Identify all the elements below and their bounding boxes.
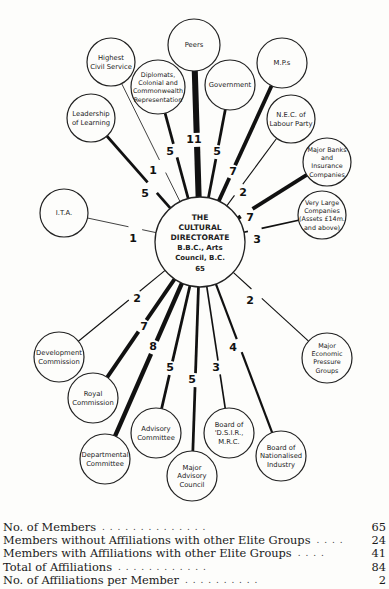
edge-ita: [142, 230, 156, 233]
node-leadership-of-learning: Leadershipof Learning: [67, 94, 115, 142]
node-label-line: Board of: [267, 444, 296, 452]
node-board-dsir: Board of'D.S.I.R.,M.R.C.: [204, 408, 254, 458]
stat-row-total-affiliations: Total of Affiliations . . . . . . . . . …: [3, 561, 386, 574]
edge-diplomats: [165, 113, 173, 144]
node-major-economic-pressure-groups: MajorEconomicPressureGroups: [302, 333, 352, 383]
node-ita: I.T.A.: [40, 189, 88, 237]
node-label-line: M.R.C.: [218, 438, 240, 446]
edge-mps: [219, 178, 230, 201]
edge-weight-label: 5: [166, 361, 174, 374]
node-label-line: Leadership: [72, 110, 109, 118]
edge-advisory-committee: [162, 375, 170, 409]
node-label-line: Major: [183, 464, 202, 472]
node-label-line: Insurance: [311, 162, 342, 170]
edge-board-nationalised-industry: [216, 284, 237, 339]
node-label-line: Companies: [309, 171, 345, 179]
edge-leadership-of-learning: [157, 193, 170, 208]
node-peers: Peers: [168, 19, 220, 71]
edge-development-commission: [78, 300, 128, 341]
node-label-line: Major Banks: [307, 146, 347, 154]
edge-major-advisory-council: [196, 287, 199, 373]
node-label-line: Commission: [38, 358, 79, 366]
node-advisory-committee: AdvisoryCommittee: [131, 408, 181, 458]
node-label-line: Board of: [215, 421, 244, 429]
edge-peers: [197, 147, 199, 197]
node-board-nationalised-industry: Board ofNationalisedIndustry: [256, 431, 306, 481]
center-label-line: B.B.C., Arts: [177, 244, 222, 252]
center-node-cultural-directorate: THECULTURALDIRECTORATEB.B.C., ArtsCounci…: [155, 197, 245, 287]
edge-weight-label: 5: [188, 373, 196, 386]
node-nec-labour: N.E.C. ofLabour Party: [267, 95, 315, 143]
edge-weight-label: 3: [212, 361, 220, 374]
node-label-line: Nationalised: [260, 452, 302, 460]
node-label-line: Diplomats,: [141, 71, 175, 79]
edge-weight-label: 7: [140, 320, 148, 333]
leader-dots: . . . . . . . . . .: [179, 574, 368, 587]
center-label-line: 65: [195, 265, 205, 273]
node-label-line: N.E.C. of: [276, 111, 306, 119]
node-label-line: Highest: [98, 54, 124, 62]
node-label-line: Commission: [72, 399, 113, 407]
edge-weight-label: 5: [166, 145, 174, 158]
edge-leadership-of-learning: [107, 136, 148, 182]
node-label-line: Labour Party: [269, 120, 312, 128]
edge-highest-civil-service: [166, 173, 180, 202]
node-royal-commission: RoyalCommission: [68, 373, 118, 423]
stat-value: 84: [368, 561, 386, 574]
node-label-line: (Assets £14m.: [299, 215, 345, 223]
edge-weight-label: 5: [213, 145, 221, 158]
node-label-line: Industry: [267, 461, 295, 469]
node-label-line: Council: [179, 481, 204, 489]
node-development-commission: DevelopmentCommission: [34, 332, 84, 382]
edge-weight-label: 2: [246, 294, 254, 307]
node-label-line: Colonial and: [138, 79, 178, 87]
node-label-line: Committee: [137, 434, 175, 442]
node-label-line: Government: [209, 81, 252, 89]
stat-label: No. of Affiliations per Member: [3, 574, 179, 587]
edge-weight-label: 7: [246, 211, 254, 224]
edge-weight-label: 1: [149, 164, 157, 177]
node-label-line: Commonwealth: [133, 87, 183, 95]
affiliation-diagram: 1115572735127855342 PeersHighestCivil Se…: [0, 0, 389, 520]
node-label-line: Advisory: [141, 425, 170, 433]
node-label-line: Development: [36, 349, 82, 357]
edge-royal-commission: [107, 332, 138, 378]
edge-very-large-companies: [262, 220, 299, 228]
center-label-line: Council, B.C.: [175, 254, 225, 262]
node-label-line: 'D.S.I.R.,: [215, 429, 244, 437]
statistics-table: No. of Members . . . . . . . . . . . . .…: [3, 521, 386, 587]
node-government: Government: [205, 60, 255, 110]
node-label-line: Very Large: [305, 199, 339, 207]
node-mps: M.P.s: [257, 38, 307, 88]
edge-weight-label: 7: [229, 165, 237, 178]
node-label-line: Economic: [312, 350, 343, 358]
node-diplomats: Diplomats,Colonial andCommonwealthRepres…: [131, 60, 185, 114]
edge-weight-label: 4: [229, 341, 237, 354]
node-major-banks: Major BanksandInsuranceCompanies: [303, 138, 351, 186]
edge-major-advisory-council: [193, 387, 195, 451]
edge-nec-labour: [227, 195, 235, 205]
edge-major-economic-pressure-groups: [233, 272, 251, 289]
stat-label: Members with Affiliations with other Eli…: [3, 547, 292, 560]
node-label-line: Civil Service: [90, 63, 132, 71]
edge-weight-label: 1: [129, 232, 137, 245]
stat-row-with-affiliations: Members with Affiliations with other Eli…: [3, 547, 386, 560]
edge-board-dsir: [220, 374, 225, 408]
leader-dots: . . . .: [292, 547, 368, 560]
node-departmental-committee: DepartmentalCommittee: [80, 434, 130, 484]
edge-weight-label: 5: [141, 187, 149, 200]
node-label-line: I.T.A.: [56, 209, 72, 217]
node-label-line: and: [321, 154, 333, 162]
edge-development-commission: [140, 270, 165, 291]
node-label-line: of Learning: [72, 119, 110, 127]
node-label-line: Groups: [316, 367, 339, 375]
node-label-line: Pressure: [313, 358, 340, 366]
node-label-line: Advisory: [177, 472, 206, 480]
edge-government: [219, 110, 226, 146]
node-label-line: Companies: [304, 207, 340, 215]
node-label-line: Representation: [134, 96, 183, 104]
node-label-line: Committee: [86, 460, 124, 468]
stat-row-affiliations-per-member: No. of Affiliations per Member . . . . .…: [3, 574, 386, 587]
edge-weight-label: 8: [149, 340, 157, 353]
stat-value: 2: [368, 574, 386, 587]
